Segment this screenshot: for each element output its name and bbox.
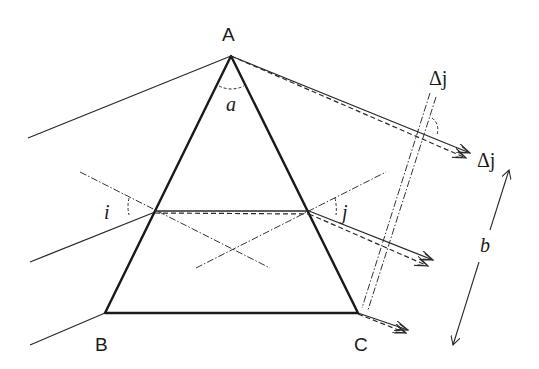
emergent-ray-bottom-solid (358, 313, 408, 330)
normal-right-face (196, 172, 386, 268)
incident-ray-middle (30, 212, 155, 262)
emergent-rays (231, 56, 470, 333)
emergent-ray-bottom-dashed (358, 314, 406, 333)
dimension-b (453, 170, 509, 345)
vertex-label-b: B (95, 334, 108, 355)
dimension-arrow-down (453, 262, 479, 345)
apex-angle-arc (219, 86, 244, 89)
vertex-label-a: A (222, 24, 235, 45)
incident-ray-bottom (30, 313, 105, 345)
incidence-angle-label: i (104, 201, 110, 223)
wavefront-line-2 (368, 97, 436, 310)
dimension-label-b: b (480, 234, 490, 256)
incidence-angle-arc (128, 198, 129, 215)
internal-rays (155, 211, 309, 214)
emergent-ray-middle-dashed (309, 214, 428, 266)
vertex-label-c: C (354, 334, 368, 355)
normal-lines (80, 93, 436, 310)
internal-ray-dashed (155, 213, 309, 214)
apex-angle-label: a (226, 93, 236, 115)
wavefront-line-1 (362, 93, 430, 308)
delta-j-upper-label: Δj (429, 67, 447, 90)
angle-arcs (128, 86, 438, 215)
emergence-angle-label: j (339, 201, 348, 224)
incident-rays (28, 56, 231, 345)
prism-diagram: A B C a i j Δj Δj b (0, 0, 539, 369)
delta-angle-arc (432, 118, 438, 135)
delta-j-right-label: Δj (477, 149, 495, 172)
emergence-angle-arc (335, 198, 336, 215)
incident-ray-top (28, 56, 231, 138)
dimension-arrow-up (490, 170, 509, 230)
